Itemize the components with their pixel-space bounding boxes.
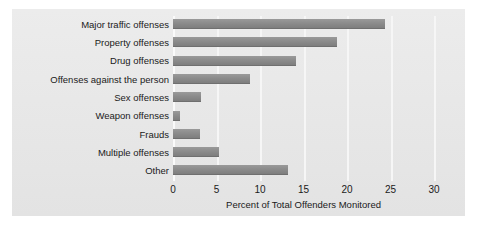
x-tick-label: 15 (298, 184, 309, 196)
x-tick-label: 20 (341, 184, 352, 196)
plot-area (173, 16, 434, 181)
category-label: Drug offenses (18, 55, 169, 66)
x-tick-label: 10 (254, 184, 265, 196)
bar (173, 165, 288, 175)
gridline-30 (434, 16, 436, 181)
x-tick-label: 0 (170, 184, 176, 196)
x-tick-label: 5 (214, 184, 220, 196)
bar (173, 37, 337, 47)
category-label: Multiple offenses (18, 147, 169, 158)
bar (173, 56, 296, 66)
chart-figure: Major traffic offenses Property offenses… (0, 0, 477, 229)
category-label: Property offenses (18, 37, 169, 48)
bar (173, 129, 200, 139)
category-label: Offenses against the person (18, 74, 169, 85)
category-label: Frauds (18, 129, 169, 140)
bar (173, 74, 250, 84)
bar (173, 111, 180, 121)
bar (173, 19, 385, 29)
x-tick-label: 25 (385, 184, 396, 196)
x-tick-label: 30 (428, 184, 439, 196)
category-label: Weapon offenses (18, 110, 169, 121)
category-label: Other (18, 165, 169, 176)
bar (173, 92, 201, 102)
category-label: Major traffic offenses (18, 19, 169, 30)
bar (173, 147, 219, 157)
category-axis-labels: Major traffic offenses Property offenses… (18, 16, 169, 181)
x-axis-title: Percent of Total Offenders Monitored (173, 199, 434, 210)
category-label: Sex offenses (18, 92, 169, 103)
x-axis-tick-labels: 0 5 10 15 20 25 30 (173, 184, 434, 198)
bar-series (173, 16, 434, 181)
